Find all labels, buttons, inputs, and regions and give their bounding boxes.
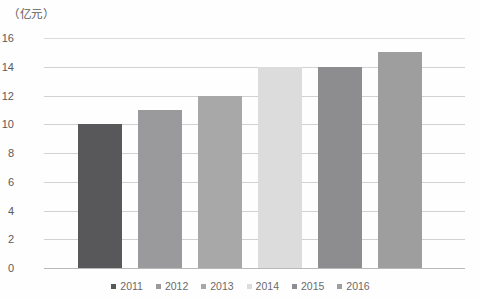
legend-item-2016[interactable]: 2016 [337,280,369,292]
y-axis-unit-label: （亿元） [8,5,54,21]
bar-2012 [138,110,182,268]
plot-area: 0246810121416 [44,38,465,268]
bar-2014 [258,67,302,268]
legend-item-2011[interactable]: 2011 [111,280,143,292]
legend-label: 2016 [346,280,369,292]
bar-2011 [78,124,122,268]
legend-label: 2013 [210,280,233,292]
y-tick-label: 4 [0,205,14,217]
y-tick-label: 12 [0,90,14,102]
legend-swatch-icon [111,284,116,289]
legend-swatch-icon [337,284,342,289]
legend-swatch-icon [156,284,161,289]
y-tick-label: 16 [0,32,14,44]
y-tick-label: 10 [0,118,14,130]
legend-swatch-icon [201,284,206,289]
bar-2013 [198,96,242,269]
y-tick-label: 14 [0,61,14,73]
legend-label: 2011 [120,280,143,292]
legend-swatch-icon [247,284,252,289]
bar-chart-figure: （亿元） 0246810121416 201120122013201420152… [0,0,481,301]
bar-2016 [378,52,422,268]
y-tick-label: 0 [0,262,14,274]
bar-series [44,38,465,268]
bar-2015 [318,67,362,268]
y-tick-label: 2 [0,233,14,245]
legend-item-2015[interactable]: 2015 [292,280,324,292]
y-tick-label: 6 [0,176,14,188]
y-tick-label: 8 [0,147,14,159]
legend-label: 2015 [301,280,324,292]
chart-legend: 201120122013201420152016 [0,280,481,292]
legend-item-2014[interactable]: 2014 [247,280,279,292]
legend-item-2012[interactable]: 2012 [156,280,188,292]
legend-swatch-icon [292,284,297,289]
legend-item-2013[interactable]: 2013 [201,280,233,292]
legend-label: 2014 [256,280,279,292]
gridline [44,268,465,269]
legend-label: 2012 [165,280,188,292]
